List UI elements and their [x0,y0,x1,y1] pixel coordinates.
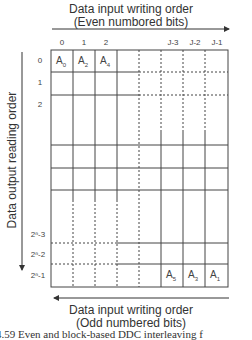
col-label-j-3: J-3 [163,38,183,47]
figure-caption: 4.59 Even and block-based DDC interleavi… [0,328,203,340]
col-label-0: 0 [56,38,68,47]
cell-a4: A4 [100,55,110,68]
row-label-2n-3: 2ⁿ-3 [26,230,50,239]
row-label-2: 2 [34,100,46,109]
cell-a3: A3 [188,269,198,282]
side-title: Data output reading order [5,80,19,240]
bottom-title-line1: Data input writing order [10,303,252,317]
row-label-1: 1 [34,78,46,87]
cell-a5: A5 [166,269,176,282]
col-label-j-1: J-1 [207,38,227,47]
col-label-2: 2 [100,38,112,47]
row-label-0: 0 [34,56,46,65]
row-label-2n-2: 2ⁿ-2 [26,250,50,259]
row-label-2n-1: 2ⁿ-1 [26,271,50,280]
cell-a0: A0 [56,55,66,68]
col-label-j-2: J-2 [185,38,205,47]
col-label-1: 1 [78,38,90,47]
cell-a2: A2 [78,55,88,68]
cell-a1: A1 [210,269,220,282]
